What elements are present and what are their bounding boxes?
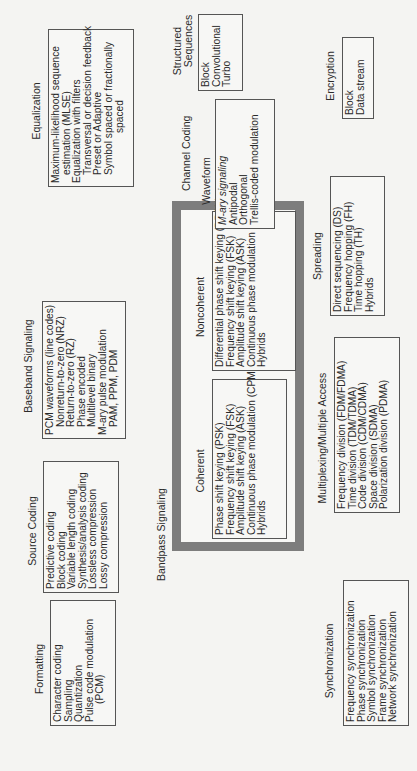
equalization-item: spaced: [115, 33, 126, 183]
baseband-signaling-box: PCM waveforms (line codes) Nonreturn-to-…: [42, 301, 126, 439]
bandpass-signaling-title: Bandpass Signaling: [155, 488, 167, 581]
equalization-item: Maximum-likelihood sequence: [51, 33, 62, 183]
equalization-box: Maximum-likelihood sequence estimation (…: [48, 29, 134, 187]
formatting-item: (PCM): [95, 604, 106, 722]
encryption-item: Block: [345, 41, 356, 115]
spreading-title: Spreading: [311, 211, 323, 301]
noncoherent-item: Hybrids: [257, 215, 268, 367]
encryption-box: Block Data stream: [342, 37, 374, 119]
spreading-box: Direct sequencing (DS) Frequency hopping…: [330, 176, 385, 316]
synchronization-item: Network synchronization: [388, 584, 399, 722]
multiplexing-item: Polarization division (PDMA): [379, 341, 390, 509]
waveform-item-mary-text: M-ary signaling: [217, 156, 228, 225]
structured-item: Turbo: [222, 18, 233, 87]
coherent-box: Phase shift keying (PSK) Frequency shift…: [212, 379, 287, 539]
synchronization-title: Synchronization: [323, 601, 335, 721]
synchronization-box: Frequency synchronization Phase synchron…: [343, 580, 409, 726]
formatting-box: Character coding Sampling Quantization P…: [50, 600, 116, 726]
waveform-item-mary: M-ary signaling: [218, 103, 229, 225]
baseband-item: M-ary pulse modulation: [98, 305, 109, 435]
multiplexing-item: Frequency division (FDM/FDMA): [337, 341, 348, 509]
structured-sequences-title: Structured Sequences: [172, 11, 194, 91]
source-coding-item: Lossy compression: [99, 465, 110, 589]
coherent-item: Hybrids: [257, 383, 268, 535]
structured-sequences-box: Block Convolutional Turbo: [198, 14, 243, 91]
synchronization-item: Frequency synchronization: [346, 584, 357, 722]
baseband-item: PCM waveforms (line codes): [45, 305, 56, 435]
encryption-item: Data stream: [356, 41, 367, 115]
formatting-title: Formatting: [33, 619, 45, 719]
coherent-item: Phase shift keying (PSK): [215, 383, 226, 535]
spreading-item: Hybrids: [365, 180, 376, 312]
equalization-item: Symbol spaced or fractionally: [104, 33, 115, 183]
waveform-title: Waveform: [200, 136, 212, 226]
noncoherent-item: Differential phase shift keying (DPSK): [215, 215, 226, 367]
baseband-item: PAM, PPM, PDM: [109, 305, 120, 435]
spreading-item: Direct sequencing (DS): [333, 180, 344, 312]
noncoherent-box: Differential phase shift keying (DPSK) F…: [212, 211, 296, 371]
multiplexing-title: Multiplexing/Multiple Access: [316, 353, 328, 523]
encryption-title: Encryption: [324, 36, 336, 116]
channel-coding-title: Channel Coding: [180, 116, 192, 191]
waveform-item: Trellis-coded modulation: [250, 103, 261, 225]
digital-communication-transformations-diagram: Formatting Character coding Sampling Qua…: [0, 0, 417, 771]
formatting-item: Character coding: [53, 604, 64, 722]
baseband-signaling-title: Baseband Signaling: [22, 301, 34, 431]
source-coding-item: Predictive coding: [46, 465, 57, 589]
equalization-title: Equalization: [30, 61, 42, 161]
multiplexing-box: Frequency division (FDM/FDMA) Time divis…: [334, 337, 400, 513]
source-coding-box: Predictive coding Block coding Variable …: [43, 461, 119, 593]
noncoherent-title: Noncoherent: [194, 257, 206, 357]
waveform-box: M-ary signaling Antipodal Orthogonal Tre…: [215, 99, 275, 229]
source-coding-title: Source Coding: [26, 476, 38, 586]
coherent-title: Coherent: [194, 421, 206, 521]
structured-sequences-title-line2: Sequences: [182, 15, 194, 88]
structured-item: Block: [201, 18, 212, 87]
formatting-item: Pulse code modulation: [85, 604, 96, 722]
